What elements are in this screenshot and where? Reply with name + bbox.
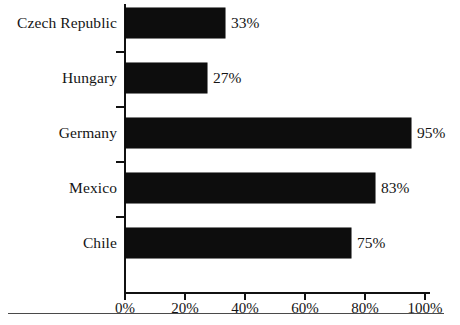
x-axis-tick bbox=[304, 292, 306, 300]
bar-chart-figure: Czech Republic 33% Hungary 27% Germany 9… bbox=[0, 0, 460, 325]
bar-mexico bbox=[126, 173, 375, 203]
bar-row: Czech Republic 33% bbox=[0, 8, 460, 38]
bar-row: Chile 75% bbox=[0, 228, 460, 258]
y-axis-tick bbox=[116, 216, 125, 218]
x-axis-tick-label-60: 60% bbox=[291, 300, 319, 317]
category-label-czech-republic: Czech Republic bbox=[17, 8, 117, 38]
x-axis-tick bbox=[364, 292, 366, 300]
bar-value-mexico: 83% bbox=[381, 173, 409, 203]
footer-divider bbox=[8, 313, 444, 314]
x-axis-line bbox=[124, 292, 430, 294]
x-axis-tick-label-80: 80% bbox=[351, 300, 379, 317]
category-label-hungary: Hungary bbox=[62, 63, 117, 93]
bar-value-germany: 95% bbox=[417, 118, 445, 148]
x-axis-tick-label-0: 0% bbox=[115, 300, 135, 317]
y-axis-tick bbox=[116, 106, 125, 108]
category-label-chile: Chile bbox=[83, 228, 117, 258]
bar-germany bbox=[126, 118, 411, 148]
category-label-mexico: Mexico bbox=[69, 173, 117, 203]
x-axis-tick-label-40: 40% bbox=[231, 300, 259, 317]
y-axis-tick bbox=[116, 161, 125, 163]
y-axis-tick bbox=[116, 51, 125, 53]
x-axis-tick bbox=[184, 292, 186, 300]
x-axis-tick bbox=[424, 292, 426, 300]
bar-hungary bbox=[126, 63, 207, 93]
bar-row: Mexico 83% bbox=[0, 173, 460, 203]
plot-area: Czech Republic 33% Hungary 27% Germany 9… bbox=[0, 0, 460, 300]
x-axis-tick bbox=[124, 292, 126, 300]
bar-row: Germany 95% bbox=[0, 118, 460, 148]
x-axis-tick bbox=[244, 292, 246, 300]
footer-caption bbox=[10, 318, 450, 325]
bar-value-chile: 75% bbox=[357, 228, 385, 258]
bar-value-czech-republic: 33% bbox=[231, 8, 259, 38]
bar-row: Hungary 27% bbox=[0, 63, 460, 93]
x-axis-tick-label-20: 20% bbox=[171, 300, 199, 317]
bar-chile bbox=[126, 228, 351, 258]
bar-czech-republic bbox=[126, 8, 225, 38]
category-label-germany: Germany bbox=[59, 118, 117, 148]
bar-value-hungary: 27% bbox=[213, 63, 241, 93]
x-axis-tick-label-100: 100% bbox=[408, 300, 443, 317]
